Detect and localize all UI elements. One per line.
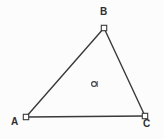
vertex-label-b: B <box>100 7 107 17</box>
vertex-marker-a <box>23 114 28 119</box>
triangle-edges <box>26 28 145 117</box>
edge-b-c <box>104 28 145 116</box>
edge-c-a <box>26 116 145 117</box>
vertex-label-c: C <box>143 119 150 129</box>
edge-a-b <box>26 28 104 117</box>
triangle-diagram-svg <box>0 0 164 139</box>
vertex-label-a: A <box>11 117 18 127</box>
vertex-markers <box>23 25 147 119</box>
incenter-label: I <box>96 80 99 89</box>
vertex-marker-b <box>101 25 106 30</box>
triangle-diagram-canvas: A B C I <box>0 0 164 139</box>
